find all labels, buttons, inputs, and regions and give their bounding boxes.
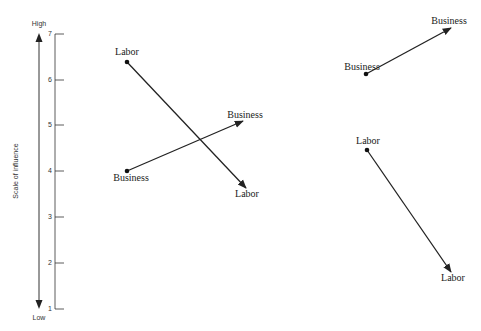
tick-5: 5 (48, 121, 52, 128)
high-label: High (32, 20, 47, 28)
left-panel: Labor Labor Business Business (113, 46, 263, 199)
left-business-arrow: Business Business (113, 109, 263, 183)
tick-4: 4 (48, 167, 52, 174)
influence-diagram: High Low Scale of influence 7 6 5 4 3 2 … (0, 0, 481, 331)
left-business-start-label: Business (113, 172, 149, 183)
tick-6: 6 (48, 76, 52, 83)
left-labor-start-label: Labor (115, 46, 140, 57)
tick-1: 1 (48, 305, 52, 312)
right-panel: Business Business Labor Labor (344, 15, 467, 283)
start-dot-icon (364, 72, 369, 77)
y-axis: 7 6 5 4 3 2 1 (48, 30, 64, 312)
left-business-end-label: Business (227, 109, 263, 120)
left-labor-end-label: Labor (235, 188, 260, 199)
arrow-up-icon (36, 33, 43, 42)
right-labor-arrow: Labor Labor (356, 135, 466, 283)
low-label: Low (33, 314, 47, 321)
start-dot-icon (125, 60, 130, 65)
right-business-start-label: Business (344, 61, 380, 72)
tick-3: 3 (48, 213, 52, 220)
right-labor-end-label: Labor (441, 272, 466, 283)
right-business-arrow: Business Business (344, 15, 467, 76)
tick-2: 2 (48, 259, 52, 266)
high-low-arrow: High Low (32, 20, 47, 321)
right-labor-start-label: Labor (356, 135, 381, 146)
axis-title: Scale of influence (12, 143, 19, 198)
start-dot-icon (365, 148, 370, 153)
right-business-end-label: Business (431, 15, 467, 26)
arrow-down-icon (36, 300, 43, 309)
tick-7: 7 (48, 30, 52, 37)
